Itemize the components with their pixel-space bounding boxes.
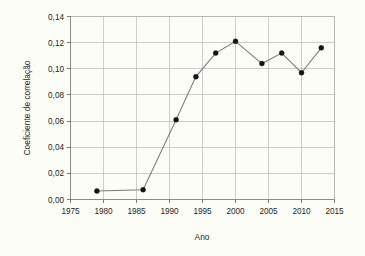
y-axis-tick-label: 0,00 [48, 196, 64, 205]
y-axis-title: Coeficiente de correlação [22, 60, 32, 155]
x-axis-tick-label: 1995 [193, 207, 212, 216]
x-axis-tick-label: 1975 [61, 207, 80, 216]
x-axis-tick-label: 2005 [259, 207, 278, 216]
x-axis-title: Ano [195, 232, 210, 242]
chart-canvas: 0,000,020,040,060,080,100,120,14 1975198… [0, 0, 365, 256]
y-axis-tick-label: 0,04 [48, 143, 64, 152]
data-point-marker [233, 39, 238, 44]
data-point-marker [213, 51, 218, 56]
data-point-marker [259, 61, 264, 66]
data-point-marker [279, 51, 284, 56]
y-axis-tick-label: 0,12 [48, 39, 64, 48]
data-point-marker [141, 187, 146, 192]
x-axis-tick-labels: 197519801985199019952000200520102015 [61, 207, 344, 216]
x-axis-tick-label: 1990 [160, 207, 179, 216]
x-axis-tick-label: 2015 [325, 207, 344, 216]
x-axis-tick-label: 1980 [94, 207, 113, 216]
data-point-marker [94, 189, 99, 194]
x-axis-tick-label: 2000 [226, 207, 245, 216]
y-axis-tick-label: 0,08 [48, 91, 64, 100]
chart-figure: 0,000,020,040,060,080,100,120,14 1975198… [0, 0, 365, 256]
y-axis-tick-label: 0,02 [48, 169, 64, 178]
y-axis-tick-label: 0,14 [48, 13, 64, 22]
data-point-marker [174, 117, 179, 122]
data-point-marker [193, 74, 198, 79]
y-axis-tick-label: 0,10 [48, 65, 64, 74]
x-axis-tick-label: 2010 [292, 207, 311, 216]
data-point-marker [319, 45, 324, 50]
x-axis-tick-label: 1985 [127, 207, 146, 216]
y-axis-tick-label: 0,06 [48, 117, 64, 126]
data-point-marker [299, 70, 304, 75]
